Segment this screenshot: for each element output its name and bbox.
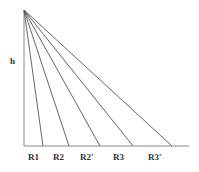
rays	[24, 10, 172, 146]
ray-label: R1	[28, 152, 39, 162]
diagram-canvas	[0, 0, 199, 172]
ray-label: R3'	[148, 152, 162, 162]
ray-label: R2'	[80, 152, 94, 162]
height-label: h	[10, 56, 15, 66]
ray-label: R3	[113, 152, 124, 162]
ray-label: R2	[53, 152, 64, 162]
